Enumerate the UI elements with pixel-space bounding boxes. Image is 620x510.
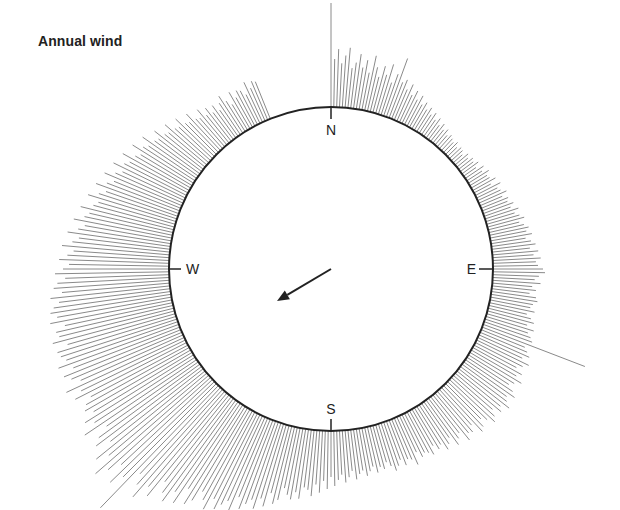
- wind-rose-chart: N E S W: [0, 0, 620, 510]
- frequency-bar: [493, 272, 545, 273]
- frequency-bar: [457, 158, 468, 167]
- frequency-bar: [65, 275, 169, 279]
- frequency-bar: [354, 429, 360, 474]
- frequency-bar: [475, 183, 500, 196]
- frequency-bar: [373, 426, 385, 469]
- frequency-bar: [488, 311, 534, 324]
- frequency-bar: [340, 63, 342, 107]
- frequency-bar: [69, 264, 169, 266]
- frequency-bar: [96, 371, 205, 459]
- mean-wind-arrow-icon: [277, 269, 331, 301]
- frequency-bar: [351, 430, 357, 480]
- frequency-bar: [255, 82, 270, 119]
- frequency-bar: [220, 110, 238, 136]
- frequency-bar: [473, 348, 522, 375]
- frequency-bar: [414, 110, 426, 131]
- frequency-bar: [490, 231, 526, 238]
- frequency-bar: [189, 122, 218, 152]
- frequency-bar: [493, 278, 535, 280]
- frequency-bar: [55, 272, 169, 274]
- frequency-bar: [252, 422, 279, 500]
- frequency-bar: [186, 114, 220, 151]
- frequency-bar: [304, 430, 311, 488]
- label-east: E: [467, 261, 476, 277]
- frequency-bar: [426, 119, 440, 138]
- frequency-bar: [78, 229, 171, 244]
- frequency-bar: [185, 123, 216, 154]
- frequency-bar: [431, 124, 445, 141]
- frequency-bar: [446, 384, 481, 419]
- frequency-bar: [340, 431, 342, 475]
- label-south: S: [326, 401, 335, 417]
- frequency-bar: [133, 391, 225, 497]
- frequency-bar: [251, 81, 267, 120]
- frequency-bar: [337, 431, 339, 480]
- frequency-bar: [453, 155, 462, 163]
- frequency-bar: [400, 416, 417, 452]
- frequency-bar: [405, 100, 418, 125]
- frequency-bar: [373, 66, 386, 112]
- frequency-bar: [491, 292, 536, 298]
- frequency-bar: [334, 431, 335, 486]
- frequency-bar: [110, 369, 203, 442]
- frequency-bar: [493, 280, 541, 283]
- frequency-bar: [448, 147, 457, 156]
- frequency-bar: [308, 430, 314, 490]
- frequency-bar: [365, 56, 377, 111]
- frequency-bar: [493, 265, 538, 266]
- frequency-bar: [493, 255, 534, 258]
- frequency-bar: [85, 226, 172, 241]
- frequency-bar: [53, 311, 175, 344]
- label-west: W: [186, 261, 200, 277]
- frequency-bar: [493, 262, 536, 264]
- frequency-bar: [400, 95, 413, 122]
- frequency-bar: [100, 386, 218, 508]
- frequency-bar: [493, 275, 539, 277]
- frequency-bars: [50, 3, 585, 510]
- label-north: N: [326, 122, 336, 138]
- frequency-bar: [68, 314, 176, 345]
- frequency-bar: [123, 384, 216, 477]
- frequency-bar: [473, 178, 496, 191]
- frequency-bar: [422, 113, 437, 135]
- frequency-bar: [356, 68, 363, 110]
- frequency-bar: [67, 255, 169, 260]
- frequency-bar: [334, 59, 335, 107]
- frequency-bar: [356, 429, 363, 471]
- frequency-bar: [394, 90, 407, 120]
- frequency-bar: [163, 398, 234, 492]
- frequency-bar: [240, 91, 257, 125]
- frequency-bar: [479, 191, 506, 203]
- frequency-bar: [378, 64, 393, 114]
- frequency-bar: [54, 292, 171, 309]
- frequency-bar: [68, 232, 171, 247]
- frequency-bar: [327, 431, 328, 489]
- frequency-bar: [169, 133, 207, 165]
- frequency-bar: [493, 258, 541, 261]
- frequency-bar: [324, 431, 326, 481]
- frequency-bar: [173, 403, 240, 503]
- frequency-bar: [311, 430, 317, 496]
- frequency-bar: [410, 105, 423, 128]
- frequency-bar: [468, 170, 488, 183]
- frequency-bar: [337, 49, 339, 107]
- frequency-bar: [319, 431, 322, 493]
- frequency-bar: [486, 316, 534, 331]
